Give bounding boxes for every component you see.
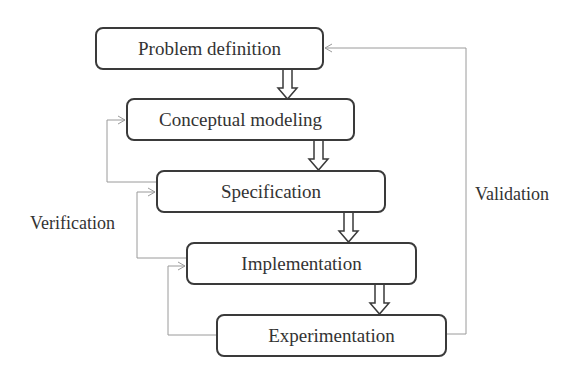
step-experimentation: Experimentation — [216, 314, 447, 357]
step-specification: Specification — [156, 170, 386, 213]
step-label: Problem definition — [138, 38, 281, 60]
step-implementation: Implementation — [186, 242, 417, 285]
step-label: Specification — [221, 181, 321, 203]
flow-arrow-2-icon — [309, 140, 328, 170]
step-problem-definition: Problem definition — [95, 27, 324, 70]
flow-arrow-1-icon — [278, 69, 297, 99]
step-label: Implementation — [241, 253, 361, 275]
step-label: Conceptual modeling — [159, 109, 322, 131]
flow-arrow-3-icon — [339, 212, 358, 242]
step-conceptual-modeling: Conceptual modeling — [126, 98, 355, 141]
flow-arrow-4-icon — [370, 284, 389, 314]
validation-label: Validation — [475, 184, 549, 205]
step-label: Experimentation — [268, 325, 395, 347]
verification-label: Verification — [30, 213, 115, 234]
